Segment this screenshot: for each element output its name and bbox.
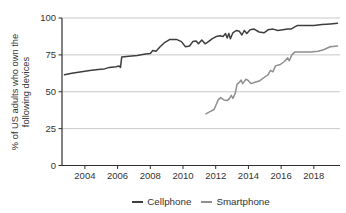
y-tick-label: 75 <box>45 49 56 60</box>
cellphone-line-swatch-icon <box>132 201 143 203</box>
x-tick-label: 2004 <box>74 170 95 181</box>
legend: Cellphone Smartphone <box>62 196 340 207</box>
smartphone-legend-label: Smartphone <box>216 196 269 207</box>
x-tick-label: 2012 <box>205 170 226 181</box>
x-tick-label: 2016 <box>271 170 292 181</box>
legend-item-cellphone: Cellphone <box>132 196 191 207</box>
x-tick-label: 2010 <box>172 170 193 181</box>
cellphone-legend-label: Cellphone <box>147 196 191 207</box>
y-tick-label: 100 <box>40 12 56 23</box>
y-tick-label: 25 <box>45 123 56 134</box>
smartphone-line-swatch-icon <box>201 201 212 203</box>
x-tick-label: 2006 <box>107 170 128 181</box>
y-tick-label: 0 <box>51 160 56 171</box>
device-ownership-chart: 0255075100200420062008201020122014201620… <box>0 0 346 213</box>
cellphone-line <box>65 23 338 75</box>
plot-svg: 0255075100200420062008201020122014201620… <box>0 0 346 192</box>
x-tick-label: 2018 <box>303 170 324 181</box>
x-tick-label: 2008 <box>140 170 161 181</box>
x-tick-label: 2014 <box>238 170 259 181</box>
y-tick-label: 50 <box>45 86 56 97</box>
smartphone-line <box>206 46 338 114</box>
y-axis-title: % of US adults who own the following dev… <box>10 26 32 158</box>
legend-item-smartphone: Smartphone <box>201 196 269 207</box>
